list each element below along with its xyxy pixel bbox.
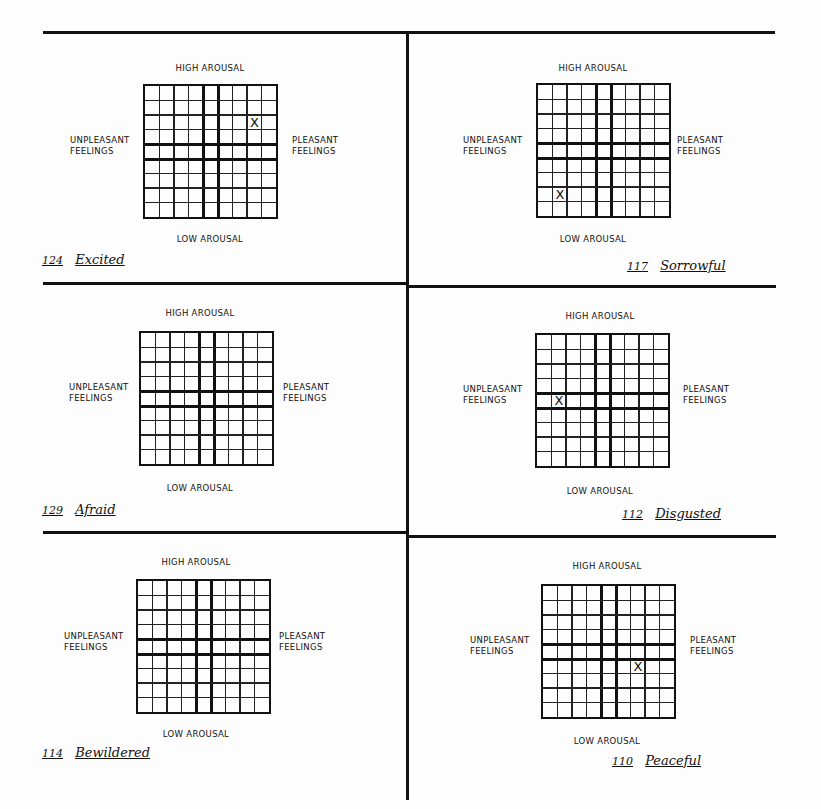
emotion-word: Bewildered [75,745,150,760]
grid-line-horizontal [543,687,674,689]
grid-line-horizontal [145,100,276,102]
response-label: 117 Sorrowful [627,258,730,273]
grid-line-horizontal [145,187,276,189]
grid-line-horizontal [537,349,668,351]
grid-line-horizontal [141,361,272,363]
column-divider [406,31,409,800]
grid-line-vertical [638,335,640,466]
grid-line-horizontal [538,128,669,130]
affect-grid[interactable]: X [536,83,671,218]
grid-line-horizontal [543,629,674,631]
high-arousal-label: HIGH AROUSAL [566,311,635,322]
grid-line-vertical [625,85,627,216]
low-arousal-label: LOW AROUSAL [574,736,640,747]
response-label: 110 Peaceful [612,753,715,768]
grid-line-horizontal [543,614,674,616]
grid-line-horizontal [138,638,269,641]
grid-line-vertical [169,333,171,464]
grid-line-horizontal [141,420,272,422]
unpleasant-label: UNPLEASANT FEELINGS [463,384,523,406]
grid-line-vertical [609,335,612,466]
unpleasant-label: UNPLEASANT FEELINGS [69,382,129,404]
affect-grid[interactable] [136,579,271,714]
emotion-word: Disgusted [655,506,725,521]
high-arousal-label: HIGH AROUSAL [559,63,628,74]
high-arousal-label: HIGH AROUSAL [162,557,231,568]
grid-line-horizontal [145,143,276,146]
affect-grid[interactable] [139,331,274,466]
item-number: 129 [42,504,63,517]
grid-line-horizontal [145,158,276,161]
row-divider-2-left [43,531,408,534]
grid-line-horizontal [138,682,269,684]
grid-line-vertical [242,333,244,464]
unpleasant-line1: UNPLEASANT [463,135,523,145]
grid-line-vertical [624,335,626,466]
grid-line-vertical [630,586,632,717]
high-arousal-label: HIGH AROUSAL [176,63,245,74]
grid-line-vertical [166,581,168,712]
grid-line-horizontal [538,142,669,145]
unpleasant-line2: FEELINGS [463,146,507,156]
grid-line-horizontal [537,436,668,438]
grid-line-vertical [188,86,190,217]
item-number: 124 [42,254,63,267]
grid-line-horizontal [138,595,269,597]
grid-line-vertical [198,333,201,464]
response-label: 124 Excited [42,252,175,267]
x-mark: X [630,660,645,673]
pleasant-label: PLEASANT FEELINGS [677,135,723,157]
item-number: 112 [622,508,643,521]
grid-line-vertical [225,581,227,712]
grid-line-horizontal [543,658,674,661]
pleasant-line2: FEELINGS [292,146,336,156]
grid-line-vertical [557,586,559,717]
grid-line-vertical [213,333,216,464]
affect-grid[interactable]: X [535,333,670,468]
grid-line-vertical [654,85,656,216]
pleasant-line2: FEELINGS [690,646,734,656]
grid-line-horizontal [538,157,669,160]
pleasant-line1: PLEASANT [279,631,325,641]
grid-line-horizontal [537,378,668,380]
pleasant-line2: FEELINGS [677,146,721,156]
grid-line-horizontal [145,173,276,175]
grid-line-vertical [580,335,582,466]
grid-line-vertical [159,86,161,217]
low-arousal-label: LOW AROUSAL [163,729,229,740]
unpleasant-label: UNPLEASANT FEELINGS [463,135,523,157]
pleasant-label: PLEASANT FEELINGS [690,635,736,657]
unpleasant-line1: UNPLEASANT [64,631,124,641]
grid-line-vertical [594,335,597,466]
high-arousal-label: HIGH AROUSAL [166,308,235,319]
low-arousal-label: LOW AROUSAL [560,234,626,245]
unpleasant-line2: FEELINGS [69,393,113,403]
grid-line-horizontal [537,422,668,424]
unpleasant-line2: FEELINGS [64,642,108,652]
pleasant-label: PLEASANT FEELINGS [292,135,338,157]
pleasant-line1: PLEASANT [690,635,736,645]
unpleasant-label: UNPLEASANT FEELINGS [470,635,530,657]
grid-line-horizontal [141,390,272,393]
grid-line-horizontal [145,202,276,204]
grid-line-vertical [653,335,655,466]
grid-line-vertical [639,85,641,216]
grid-line-horizontal [141,405,272,408]
grid-line-horizontal [141,449,272,451]
x-mark: X [552,394,567,407]
grid-line-vertical [610,85,613,216]
affect-grid[interactable]: X [541,584,676,719]
low-arousal-label: LOW AROUSAL [567,486,633,497]
item-number: 110 [612,755,633,768]
grid-line-vertical [644,586,646,717]
unpleasant-line2: FEELINGS [463,395,507,405]
grid-line-vertical [181,581,183,712]
response-label: 112 Disgusted [622,506,725,521]
grid-line-vertical [202,86,205,217]
row-divider-1-left [43,282,408,285]
grid-line-horizontal [538,99,669,101]
grid-line-horizontal [537,451,668,453]
pleasant-line2: FEELINGS [283,393,327,403]
affect-grid[interactable]: X [143,84,278,219]
grid-line-horizontal [138,697,269,699]
